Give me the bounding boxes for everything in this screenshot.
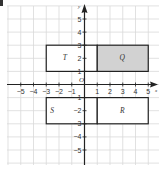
y-tick-label: −2 (74, 107, 82, 114)
x-tick-label: −5 (17, 88, 25, 95)
coordinate-diagram: −5−4−3−2−11234554321−1−2−3−4−5OxyTQSR (0, 0, 159, 169)
y-tick-label: −5 (74, 147, 82, 154)
y-tick-label: 4 (78, 29, 82, 36)
grid-lines (7, 6, 159, 165)
y-tick-label: 3 (78, 42, 82, 49)
x-tick-label: 4 (134, 88, 138, 95)
y-tick-label: −4 (74, 133, 82, 140)
x-tick-label: −3 (42, 88, 50, 95)
x-tick-label: −2 (55, 88, 63, 95)
rectangle-t (46, 45, 97, 71)
x-axis-label: x (154, 88, 158, 93)
origin-label: O (79, 76, 84, 84)
tick-labels: −5−4−3−2−11234554321−1−2−3−4−5OxyTQSR (17, 4, 158, 154)
y-tick-label: −1 (74, 94, 82, 101)
x-tick-label: 1 (95, 88, 99, 95)
coordinate-plane: −5−4−3−2−11234554321−1−2−3−4−5OxyTQSR (0, 0, 159, 169)
shape-label-r: R (119, 106, 125, 115)
y-tick-label: −3 (74, 120, 82, 127)
y-tick-label: 1 (78, 68, 82, 75)
y-axis-arrow-icon (82, 4, 88, 13)
y-axis-label: y (77, 4, 81, 9)
x-tick-label: 5 (146, 88, 150, 95)
x-axis-arrow-icon (150, 82, 158, 88)
x-tick-label: 3 (121, 88, 125, 95)
x-tick-label: 2 (108, 88, 112, 95)
question-number-mark (0, 0, 3, 6)
y-tick-label: 5 (78, 16, 82, 23)
shape-label-q: Q (120, 53, 126, 62)
x-tick-label: −4 (30, 88, 38, 95)
y-tick-label: 2 (78, 55, 82, 62)
shape-label-s: S (50, 106, 54, 115)
